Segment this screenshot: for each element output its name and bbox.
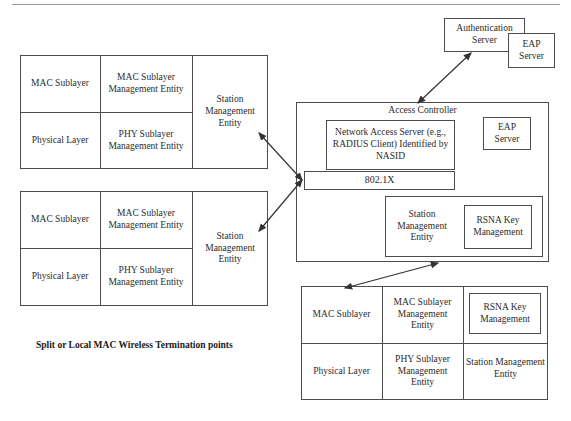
station-box-1-station-mgmt: Station Management Entity bbox=[192, 55, 268, 169]
station-box-2-station-mgmt: Station Management Entity bbox=[192, 191, 268, 306]
station-box-3-physical-layer: Physical Layer bbox=[301, 343, 382, 400]
eap-server-top-label: EAP Server bbox=[508, 33, 555, 68]
station-box-2-physical-layer: Physical Layer bbox=[20, 248, 100, 306]
station-box-1-mac-sublayer: MAC Sublayer bbox=[20, 55, 100, 112]
figure-caption: Split or Local MAC Wireless Termination … bbox=[36, 340, 233, 350]
station-box-1-phy-sublayer-mgmt: PHY Sublayer Management Entity bbox=[100, 112, 192, 169]
dot1x-label: 802.1X bbox=[304, 171, 455, 190]
eap-server-ac-label: EAP Server bbox=[483, 117, 531, 150]
header-rule bbox=[12, 4, 560, 5]
diagram-canvas: Authentication Server EAP Server MAC Sub… bbox=[0, 0, 571, 421]
arrow-ac-to-station3 bbox=[345, 263, 438, 288]
station-box-3-mac-sublayer: MAC Sublayer bbox=[301, 286, 382, 343]
network-access-server-label: Network Access Server (e.g., RADIUS Clie… bbox=[326, 120, 455, 170]
station-box-2-phy-sublayer-mgmt: PHY Sublayer Management Entity bbox=[100, 248, 192, 306]
station-box-1-mac-sublayer-mgmt: MAC Sublayer Management Entity bbox=[100, 55, 192, 112]
station-box-3-mac-sublayer-mgmt: MAC Sublayer Management Entity bbox=[382, 286, 463, 343]
ac-rsna-key-mgmt-label: RSNA Key Management bbox=[464, 205, 532, 249]
station-box-1-physical-layer: Physical Layer bbox=[20, 112, 100, 169]
ac-station-mgmt-label: Station Management Entity bbox=[386, 196, 458, 257]
station-box-2-mac-sublayer: MAC Sublayer bbox=[20, 191, 100, 248]
station-box-3-rsna-key-mgmt-label: RSNA Key Management bbox=[469, 293, 541, 334]
arrow-ac-to-authentication-server bbox=[418, 53, 471, 103]
station-box-3-station-mgmt-label: Station Management Entity bbox=[463, 338, 548, 400]
access-controller-title: Access Controller bbox=[296, 105, 549, 115]
station-box-2-mac-sublayer-mgmt: MAC Sublayer Management Entity bbox=[100, 191, 192, 248]
station-box-3-phy-sublayer-mgmt: PHY Sublayer Management Entity bbox=[382, 343, 463, 400]
